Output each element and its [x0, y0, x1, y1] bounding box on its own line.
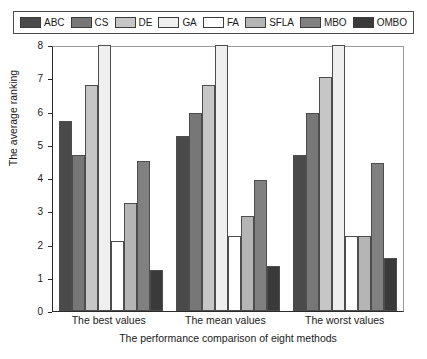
y-tick-label: 1: [37, 272, 43, 285]
legend-label: OMBO: [377, 18, 407, 28]
bar-sfla: [358, 236, 371, 311]
bar-group: [59, 47, 163, 311]
legend-swatch-ga: [158, 17, 179, 28]
y-tick-label: 7: [37, 72, 43, 85]
legend-label: GA: [182, 18, 196, 28]
legend-label: DE: [139, 18, 153, 28]
legend-item-de: DE: [115, 17, 153, 28]
legend-swatch-de: [115, 17, 136, 28]
x-axis: The best valuesThe mean valuesThe worst …: [52, 313, 404, 333]
x-tick-label: The worst values: [305, 313, 384, 327]
legend-label: MBO: [324, 18, 346, 28]
y-tick-label: 0: [37, 305, 43, 318]
bar-de: [85, 85, 98, 311]
bar-ombo: [150, 270, 163, 311]
legend-item-ga: GA: [158, 17, 196, 28]
legend-item-fa: FA: [203, 17, 239, 28]
legend-swatch-abc: [20, 17, 41, 28]
legend-swatch-sfla: [245, 17, 266, 28]
bar-ga: [98, 45, 111, 311]
bar-sfla: [241, 216, 254, 311]
bar-fa: [345, 236, 358, 311]
y-tick-label: 4: [37, 172, 43, 185]
bar-ombo: [384, 258, 397, 311]
bar-mbo: [371, 163, 384, 311]
legend-swatch-fa: [203, 17, 224, 28]
legend-label: ABC: [44, 18, 64, 28]
chart-legend: ABCCSDEGAFASFLAMBOOMBO: [13, 11, 414, 34]
legend-swatch-cs: [71, 17, 92, 28]
bar-cs: [306, 113, 319, 311]
bar-cs: [72, 155, 85, 311]
bar-sfla: [124, 203, 137, 311]
y-tick-label: 5: [37, 139, 43, 152]
x-axis-title: The performance comparison of eight meth…: [52, 332, 404, 344]
legend-item-abc: ABC: [20, 17, 64, 28]
bar-mbo: [137, 161, 150, 311]
legend-label: SFLA: [269, 18, 294, 28]
bars-layer: [53, 47, 403, 311]
y-tick-label: 3: [37, 205, 43, 218]
legend-item-mbo: MBO: [300, 17, 346, 28]
bar-group: [293, 47, 397, 311]
bar-de: [202, 85, 215, 311]
y-tick-label: 2: [37, 239, 43, 252]
legend-item-cs: CS: [71, 17, 109, 28]
bar-abc: [293, 155, 306, 311]
bar-mbo: [254, 180, 267, 311]
bar-ombo: [267, 266, 280, 311]
legend-item-ombo: OMBO: [353, 17, 407, 28]
bar-ga: [215, 45, 228, 311]
bar-fa: [228, 236, 241, 311]
x-tick-label: The mean values: [185, 313, 266, 327]
bar-cs: [189, 113, 202, 311]
legend-swatch-mbo: [300, 17, 321, 28]
legend-item-sfla: SFLA: [245, 17, 294, 28]
y-axis-title: The average ranking: [7, 18, 19, 218]
y-tick-label: 6: [37, 106, 43, 119]
plot-area: [52, 46, 404, 312]
bar-abc: [176, 136, 189, 311]
legend-label: FA: [227, 18, 239, 28]
legend-swatch-ombo: [353, 17, 374, 28]
bar-abc: [59, 121, 72, 311]
x-tick-label: The best values: [72, 313, 146, 327]
y-tick-label: 8: [37, 39, 43, 52]
bar-group: [176, 47, 280, 311]
legend-label: CS: [95, 18, 109, 28]
bar-de: [319, 77, 332, 311]
bar-fa: [111, 241, 124, 311]
bar-ga: [332, 45, 345, 311]
